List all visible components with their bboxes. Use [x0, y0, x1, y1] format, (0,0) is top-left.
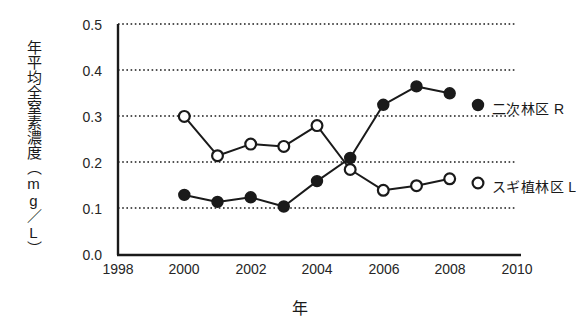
legend-marker-secondary-forest [473, 100, 484, 111]
x-tick-2006: 2006 [355, 262, 413, 276]
legend-marker-cedar-plantation [473, 178, 484, 189]
data-point [312, 176, 323, 187]
data-point [278, 141, 289, 152]
data-point [212, 150, 223, 161]
data-point [444, 173, 455, 184]
data-point [378, 99, 389, 110]
series-line [184, 86, 449, 206]
data-point [378, 185, 389, 196]
data-point [345, 153, 356, 164]
data-point [312, 120, 323, 131]
series-layer [179, 81, 484, 212]
data-point [411, 180, 422, 191]
x-tick-2004: 2004 [288, 262, 346, 276]
data-point [411, 81, 422, 92]
data-point [245, 192, 256, 203]
x-tick-2002: 2002 [222, 262, 280, 276]
data-point [179, 190, 190, 201]
legend-label-secondary-forest: 二次林区 R [492, 98, 564, 118]
x-axis-title: 年 [250, 295, 350, 319]
data-point [278, 201, 289, 212]
data-point [212, 197, 223, 208]
x-tick-2000: 2000 [155, 262, 213, 276]
data-point [444, 88, 455, 99]
data-point [345, 164, 356, 175]
x-tick-1998: 1998 [89, 262, 147, 276]
legend-label-cedar-plantation: スギ植林区 L [492, 176, 576, 196]
data-point [245, 139, 256, 150]
x-tick-2010: 2010 [488, 262, 546, 276]
x-tick-2008: 2008 [421, 262, 479, 276]
series-secondary-forest [179, 81, 455, 212]
data-point [179, 111, 190, 122]
